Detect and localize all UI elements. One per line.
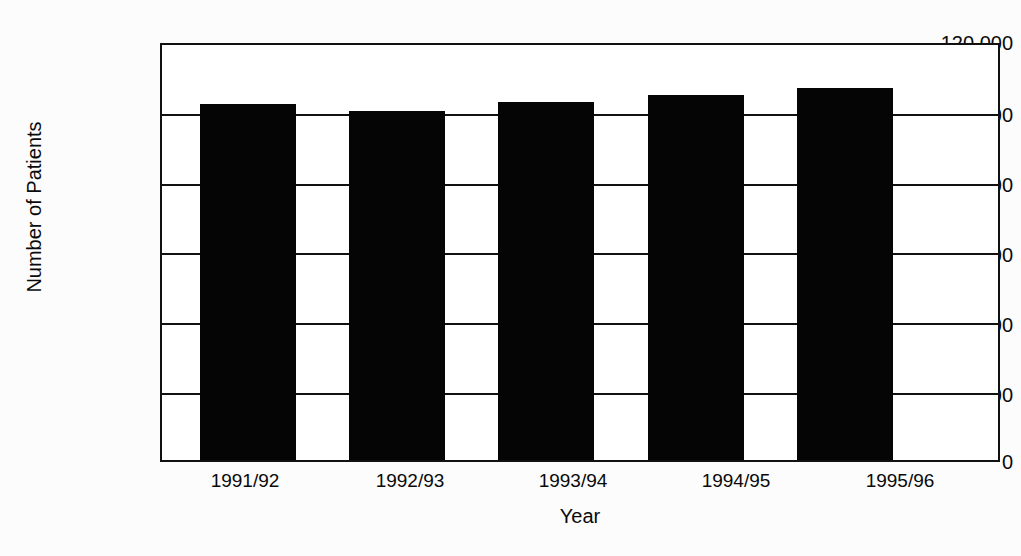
x-axis-title: Year: [160, 505, 1000, 527]
bar-1992-93: [349, 111, 445, 460]
x-tick-label-1992-93: 1992/93: [330, 470, 490, 492]
bar-1995-96: [797, 88, 893, 460]
plot-area: [160, 43, 1000, 462]
x-tick-label-1991-92: 1991/92: [165, 470, 325, 492]
bar-1993-94: [498, 102, 594, 460]
bar-1991-92: [200, 104, 296, 460]
x-tick-label-1995-96: 1995/96: [820, 470, 980, 492]
x-tick-label-1993-94: 1993/94: [493, 470, 653, 492]
cropped-title-remnant: [0, 0, 1021, 13]
bar-1994-95: [648, 95, 744, 460]
chart-figure: Number of Patients 120 000 100 000 80 00…: [0, 0, 1021, 556]
x-tick-label-1994-95: 1994/95: [656, 470, 816, 492]
y-axis-title: Number of Patients: [23, 87, 45, 327]
